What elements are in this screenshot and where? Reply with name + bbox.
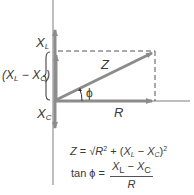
label-phi: ϕ — [86, 87, 93, 99]
tan-phi-fraction: XL − XC R — [110, 160, 153, 190]
impedance-equation: Z = √R2 + (XL − XC)2 — [70, 145, 167, 158]
tan-phi-denominator: R — [110, 177, 153, 190]
label-xl: XL — [36, 36, 49, 51]
tan-phi-lhs: tan ϕ = — [71, 168, 105, 179]
label-z: Z — [101, 58, 109, 71]
tan-phi-numerator: XL − XC — [110, 160, 153, 177]
label-xl-minus-xc: (XL − XC) — [2, 69, 50, 83]
phi-angle-arc — [80, 90, 82, 101]
label-r: R — [114, 106, 123, 119]
phasor-diagram — [0, 0, 194, 195]
label-xc: XC — [37, 107, 51, 122]
